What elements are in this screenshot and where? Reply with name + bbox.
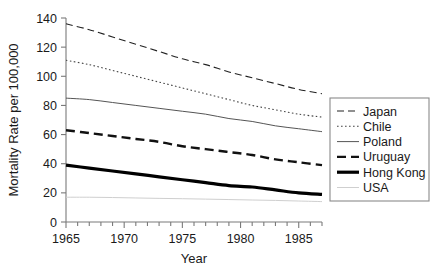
legend-label-usa: USA (363, 181, 389, 195)
y-tick-label: 60 (43, 128, 57, 142)
x-tick-label: 1970 (110, 232, 138, 246)
y-tick-label: 40 (43, 157, 57, 171)
y-tick-label: 20 (43, 186, 57, 200)
y-tick-label: 0 (50, 216, 57, 230)
x-tick-label: 1975 (168, 232, 196, 246)
x-axis-label: Year (181, 251, 208, 266)
legend-label-hong-kong: Hong Kong (363, 166, 426, 180)
y-tick-label: 120 (36, 41, 57, 55)
mortality-rate-line-chart: 020406080100120140 19651970197519801985 … (0, 0, 434, 270)
legend-label-japan: Japan (363, 105, 397, 119)
y-tick-label: 100 (36, 70, 57, 84)
y-tick-label: 140 (36, 12, 57, 26)
legend: JapanChilePolandUruguayHong KongUSA (330, 98, 429, 201)
x-tick-label: 1980 (227, 232, 255, 246)
legend-label-poland: Poland (363, 135, 402, 149)
x-tick-label: 1965 (52, 232, 80, 246)
legend-label-uruguay: Uruguay (363, 150, 411, 164)
x-tick-label: 1985 (285, 232, 313, 246)
y-axis-label: Mortality Rate per 100,000 (6, 43, 21, 196)
y-tick-label: 80 (43, 99, 57, 113)
legend-label-chile: Chile (363, 120, 392, 134)
